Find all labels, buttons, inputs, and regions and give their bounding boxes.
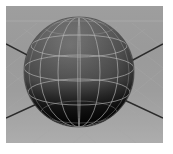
perspective-viewport[interactable] bbox=[6, 6, 163, 143]
sphere-bottom-shadow bbox=[24, 17, 134, 127]
axes-label: World Axes bbox=[0, 0, 1, 1]
application-window: Perspective Sphere Ground Grid World Axe… bbox=[0, 0, 173, 154]
grid-label: Ground Grid bbox=[0, 0, 1, 1]
object-label: Sphere bbox=[0, 0, 1, 1]
viewport-label: Perspective bbox=[0, 0, 1, 1]
sphere-object[interactable] bbox=[6, 6, 163, 143]
